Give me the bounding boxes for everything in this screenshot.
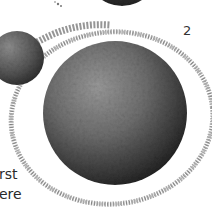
figure-number: 2 [183,23,191,38]
caption-fragment-2: ere [0,186,22,202]
top-body [86,0,158,6]
debris-top [54,1,62,7]
caption-fragment-1: rst [0,166,18,182]
planet-illustration [0,0,212,210]
illustration: 2 rst ere [0,0,212,210]
planet [43,41,187,185]
